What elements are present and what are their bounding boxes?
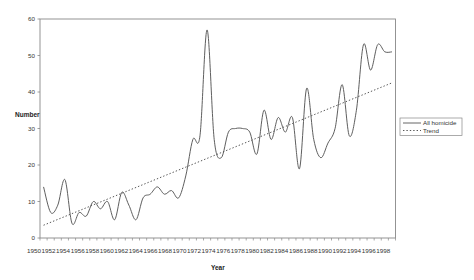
y-tick-label: 10 [28,198,35,205]
x-tick-label: 1984 [274,247,289,254]
x-tick-label: 1988 [303,247,318,254]
y-tick-label: 20 [28,161,35,168]
x-tick-label: 1968 [158,247,173,254]
legend: All homicide Trend [400,118,462,136]
y-axis-title: Number [15,111,40,118]
y-tick-label: 60 [28,15,35,22]
y-tick-label: 40 [28,88,35,95]
x-tick-label: 1954 [56,247,71,254]
x-tick-label: 1966 [143,247,158,254]
x-tick-label: 1960 [100,247,115,254]
x-axis-title: Year [211,264,225,271]
x-tick-label: 1998 [376,247,391,254]
x-tick-label: 1962 [114,247,129,254]
legend-label-all-homicide: All homicide [423,119,457,126]
x-tick-label: 1972 [187,247,202,254]
x-axis-ticks: 1950195219541956195819601962196419661968… [27,238,396,254]
plot-area [40,19,396,238]
x-tick-label: 1994 [347,247,362,254]
y-axis-ticks: 0102030405060 [28,15,40,241]
y-tick-label: 30 [28,125,35,132]
x-tick-label: 1964 [129,247,144,254]
x-tick-label: 1976 [216,247,231,254]
x-tick-label: 1952 [42,247,57,254]
all-homicide-line [44,30,392,225]
x-tick-label: 1982 [260,247,275,254]
x-tick-label: 1996 [362,247,377,254]
x-tick-label: 1958 [85,247,100,254]
x-tick-label: 1950 [27,247,42,254]
x-tick-label: 1974 [202,247,217,254]
y-tick-label: 50 [28,52,35,59]
x-tick-label: 1990 [318,247,333,254]
legend-label-trend: Trend [423,127,439,134]
homicide-line-chart: 0102030405060 19501952195419561958196019… [0,0,474,280]
x-tick-label: 1978 [231,247,246,254]
x-tick-label: 1970 [173,247,188,254]
y-tick-label: 0 [32,234,36,241]
x-tick-label: 1956 [71,247,86,254]
x-tick-label: 1986 [289,247,304,254]
x-tick-label: 1980 [245,247,260,254]
x-tick-label: 1992 [333,247,348,254]
